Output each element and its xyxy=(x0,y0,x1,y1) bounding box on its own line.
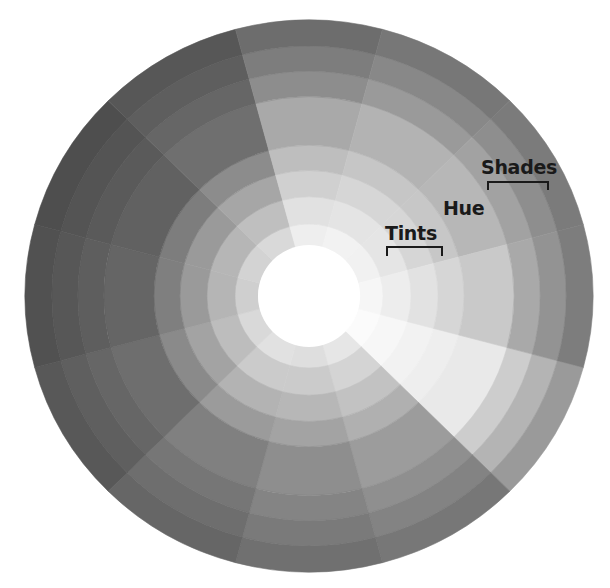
wedge-8-hue-segment xyxy=(256,97,362,151)
wedge-11-tint-2-segment xyxy=(408,264,438,329)
center-hole xyxy=(258,245,360,347)
wedge-5-tint-2-segment xyxy=(180,264,210,329)
wedge-2-tint-1-segment xyxy=(269,417,349,447)
wedge-2-tint-3-segment xyxy=(283,365,336,395)
wedge-11-tint-1-segment xyxy=(434,257,464,335)
wedge-8-tint-3-segment xyxy=(283,197,336,227)
wedge-8-tint-1-segment xyxy=(269,145,349,175)
wedge-8-tint-4-segment xyxy=(290,224,328,248)
shades-bracket xyxy=(487,181,549,190)
wedge-8-tint-2-segment xyxy=(276,171,343,201)
tints-bracket xyxy=(386,246,443,256)
shades-label: Shades xyxy=(481,158,557,177)
wedge-11-tint-3-segment xyxy=(380,270,411,321)
wedge-2-tint-2-segment xyxy=(276,392,343,422)
tints-label: Tints xyxy=(385,224,437,243)
wedge-5-tint-4-segment xyxy=(235,277,260,314)
wedge-5-tint-3-segment xyxy=(207,270,238,321)
wedge-5-tint-1-segment xyxy=(154,257,184,335)
hue-label: Hue xyxy=(443,199,484,218)
wedge-2-hue-segment xyxy=(256,442,362,496)
wedge-5-hue-segment xyxy=(104,244,159,347)
wedge-2-tint-4-segment xyxy=(290,344,328,368)
color-wheel xyxy=(0,0,610,588)
color-wheel-diagram: Shades Hue Tints xyxy=(0,0,610,588)
wedge-11-hue-segment xyxy=(459,244,514,347)
wedge-11-tint-4-segment xyxy=(358,277,383,314)
